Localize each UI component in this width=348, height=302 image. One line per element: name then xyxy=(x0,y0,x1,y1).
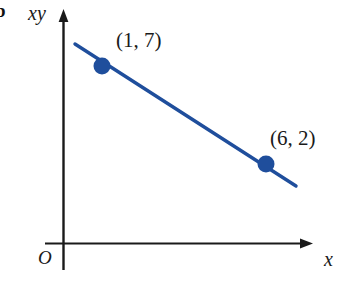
data-point-marker xyxy=(94,58,111,75)
data-point-label: (1, 7) xyxy=(116,30,162,51)
coordinate-plane-figure: b xy x O (1, 7) (6, 2) xyxy=(0,0,348,302)
data-point-label: (6, 2) xyxy=(270,128,316,149)
y-axis-label: xy xyxy=(28,3,46,23)
list-item-marker: b xyxy=(0,1,6,20)
graph-canvas xyxy=(0,0,348,302)
x-axis xyxy=(45,239,313,249)
y-axis xyxy=(59,9,69,270)
x-axis-arrowhead-icon xyxy=(300,239,313,249)
data-point-marker xyxy=(258,156,275,173)
y-axis-arrowhead-icon xyxy=(59,9,69,22)
x-axis-label: x xyxy=(324,249,333,269)
origin-label: O xyxy=(38,248,52,267)
